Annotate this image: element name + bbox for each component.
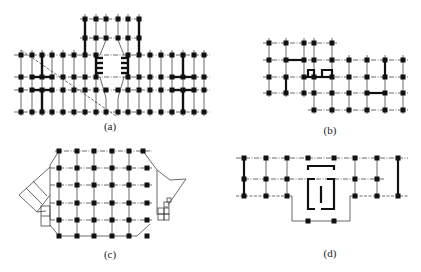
floor-plan-a [14,14,210,116]
panel-label-c: (c) [104,248,116,260]
floor-plan-c [19,149,186,239]
floor-plan-b [263,38,408,114]
panel-label-b: (b) [324,124,337,136]
panel-label-a: (a) [104,120,116,132]
floor-plan-figure [0,0,421,272]
panel-label-d: (d) [324,247,337,259]
floor-plan-d [236,156,408,224]
